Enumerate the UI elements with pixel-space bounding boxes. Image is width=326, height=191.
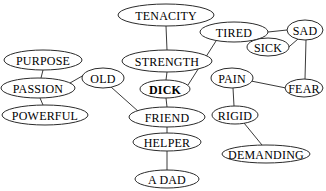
edge-tired-to-sad [268,30,287,32]
edge-tenacity-to-strength [166,26,167,50]
edge-sad-to-fear [305,40,306,79]
node-label-pain: PAIN [218,72,246,86]
node-friend[interactable]: FRIEND [129,107,205,127]
edge-pain-to-fear [251,81,286,88]
node-label-friend: FRIEND [145,111,190,125]
node-label-tenacity: TENACITY [135,9,197,23]
node-label-fear: FEAR [288,82,319,96]
node-fear[interactable]: FEAR [285,79,323,97]
node-helper[interactable]: HELPER [133,133,201,151]
node-passion[interactable]: PASSION [1,78,75,98]
node-powerful[interactable]: POWERFUL [2,105,88,125]
node-a-dad[interactable]: A DAD [135,170,199,188]
node-label-sick: SICK [254,41,282,55]
edge-strength-to-dick [166,72,167,80]
node-label-helper: HELPER [144,136,191,150]
node-dick[interactable]: DICK [140,80,190,98]
node-label-sad: SAD [293,24,318,38]
concept-map-graph: TENACITYTIREDSADSICKSTRENGTHPURPOSEPASSI… [0,0,326,191]
node-label-rigid: RIGID [218,109,252,123]
edge-old-to-friend [111,87,139,112]
node-label-dick: DICK [149,83,182,97]
node-strength[interactable]: STRENGTH [122,50,212,72]
node-sad[interactable]: SAD [287,20,323,40]
edge-pain-to-rigid [233,88,234,106]
concept-map-canvas: TENACITYTIREDSADSICKSTRENGTHPURPOSEPASSI… [0,0,326,191]
edge-purpose-to-passion [41,70,43,78]
node-old[interactable]: OLD [82,68,124,88]
node-label-tired: TIRED [216,26,252,40]
node-sick[interactable]: SICK [247,38,289,56]
node-label-old: OLD [90,72,115,86]
node-demanding[interactable]: DEMANDING [222,145,310,163]
edge-passion-to-powerful [40,98,43,105]
node-label-purpose: PURPOSE [16,54,70,68]
node-label-demanding: DEMANDING [228,148,304,162]
node-tenacity[interactable]: TENACITY [118,4,214,26]
node-purpose[interactable]: PURPOSE [4,50,82,70]
node-label-passion: PASSION [13,82,63,96]
node-label-strength: STRENGTH [135,55,199,69]
edge-rigid-to-demanding [244,123,262,145]
node-pain[interactable]: PAIN [211,68,253,88]
node-rigid[interactable]: RIGID [212,106,258,124]
node-label-powerful: POWERFUL [12,109,78,123]
node-label-a-dad: A DAD [148,173,186,187]
edge-dick-to-friend [166,98,167,107]
